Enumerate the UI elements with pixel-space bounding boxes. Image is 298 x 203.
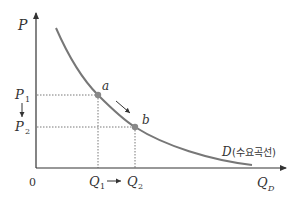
svg-text:1: 1	[100, 182, 105, 191]
origin-label: 0	[29, 176, 36, 189]
svg-text:1: 1	[25, 95, 30, 104]
svg-text:P: P	[14, 119, 24, 134]
movement-arrow-icon	[116, 101, 130, 113]
svg-text:Q: Q	[257, 175, 268, 190]
svg-text:Q: Q	[127, 174, 138, 189]
curve-label: D (수요곡선)	[221, 145, 276, 159]
price-label-p1: P 1	[14, 87, 30, 104]
x-axis-label: Q D	[257, 175, 275, 193]
point-a-label: a	[102, 79, 109, 93]
svg-text:D: D	[267, 184, 275, 193]
demand-curve-diagram: P 0 Q D P 1 P 2 Q 1 Q 2 a b D (수요곡선)	[0, 0, 298, 203]
svg-text:(수요곡선): (수요곡선)	[232, 147, 276, 158]
svg-text:P: P	[14, 87, 24, 102]
point-b	[132, 124, 138, 130]
y-axis-label: P	[17, 17, 28, 33]
point-a	[95, 92, 101, 98]
price-label-p2: P 2	[14, 119, 30, 136]
quantity-label-q2: Q 2	[127, 174, 143, 191]
point-b-label: b	[142, 113, 150, 127]
svg-text:D: D	[221, 145, 232, 159]
svg-text:2: 2	[25, 127, 30, 136]
quantity-label-q1: Q 1	[89, 174, 105, 191]
svg-text:2: 2	[138, 182, 143, 191]
svg-text:Q: Q	[89, 174, 100, 189]
